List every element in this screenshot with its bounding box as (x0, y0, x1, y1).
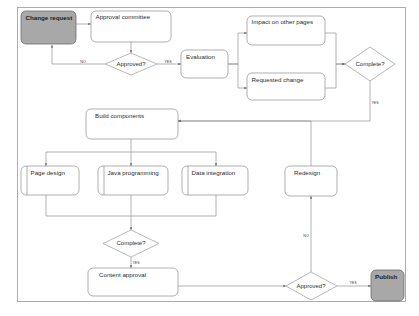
node-evaluation[interactable]: Evaluation (181, 50, 228, 78)
node-content-approval-label: Content approval (99, 271, 146, 278)
edge-redesign-to-build-components (178, 121, 311, 166)
node-java-programming[interactable]: Java programming (98, 166, 168, 195)
edge-requested-change-to-complete1 (325, 64, 345, 88)
edge-label-approved1-no: NO (80, 60, 86, 64)
edge-label-approved1-yes: YES (164, 60, 172, 64)
node-redesign-label: Redesign (294, 169, 321, 176)
edge-label-approved2-no: NO (303, 234, 309, 238)
node-data-integration[interactable]: Data integration (182, 166, 248, 195)
node-requested-change-label: Requested change (252, 76, 305, 83)
node-publish-label: Publish (375, 273, 398, 280)
node-page-design[interactable]: Page design (21, 166, 79, 195)
node-build-components-label: Build components (95, 112, 144, 119)
node-complete-decision-1[interactable]: Complete? (345, 47, 395, 81)
node-java-programming-label: Java programming (108, 169, 160, 176)
edge-label-complete1-yes: YES (371, 101, 379, 105)
node-approved-decision-1-label: Approved? (116, 61, 146, 67)
node-evaluation-label: Evaluation (186, 53, 215, 60)
edge-impact-to-complete1 (325, 33, 345, 64)
node-content-approval[interactable]: Content approval (88, 268, 178, 296)
node-impact-on-other-pages-label: Impact on other pages (252, 18, 314, 25)
node-approved-decision-2[interactable]: Approved? (286, 272, 337, 300)
node-data-integration-label: Data integration (192, 169, 236, 176)
node-approved-decision-2-label: Approved? (296, 283, 326, 289)
node-complete-decision-2[interactable]: Complete? (103, 230, 159, 257)
edge-label-approved2-yes: YES (349, 281, 357, 285)
node-approved-decision-1[interactable]: Approved? (105, 53, 157, 75)
edge-label-complete2-yes: YES (132, 261, 140, 265)
node-change-request[interactable]: Change request (21, 11, 76, 44)
edge-evaluation-to-impact (228, 33, 247, 64)
node-requested-change[interactable]: Requested change (247, 73, 325, 100)
edge-evaluation-to-requested-change (228, 64, 247, 88)
node-change-request-label: Change request (26, 14, 73, 21)
node-approval-committee-label: Approval committee (96, 13, 151, 20)
node-page-design-label: Page design (31, 169, 66, 176)
flowchart-canvas: Change request Approval committee Approv… (0, 0, 419, 316)
node-approval-committee[interactable]: Approval committee (91, 11, 171, 42)
node-impact-on-other-pages[interactable]: Impact on other pages (247, 16, 325, 45)
edge-approved1-no-to-change-request (52, 45, 105, 64)
node-complete-decision-1-label: Complete? (355, 61, 385, 67)
node-publish[interactable]: Publish (371, 270, 404, 301)
node-build-components[interactable]: Build components (86, 109, 178, 139)
node-complete-decision-2-label: Complete? (116, 240, 146, 246)
node-redesign[interactable]: Redesign (285, 166, 337, 196)
